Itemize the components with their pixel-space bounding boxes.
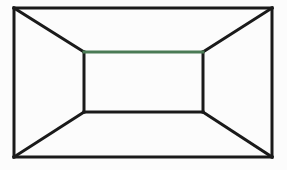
outer-frame: [14, 8, 272, 157]
diagonal-bottom-left: [14, 112, 84, 157]
diagonal-top-left: [14, 8, 84, 52]
perspective-orthogonals: [14, 8, 272, 157]
diagonal-top-right: [203, 8, 272, 52]
figure-svg: [0, 0, 287, 170]
diagonal-bottom-right: [203, 112, 272, 157]
back-wall: [84, 52, 203, 112]
perspective-box-figure: [0, 0, 287, 170]
